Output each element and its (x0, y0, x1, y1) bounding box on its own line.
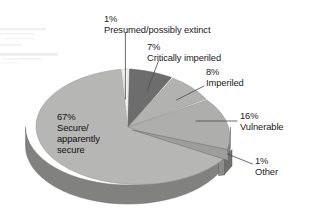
label-presumed-extinct-percent: 1% (104, 13, 210, 24)
label-critically-imperiled: 7% Critically imperiled (147, 41, 221, 63)
label-secure-name-line2: apparently (57, 133, 100, 144)
label-presumed-extinct-name: Presumed/possibly extinct (104, 24, 210, 35)
pie-chart-figure: 1% Presumed/possibly extinct 7% Critical… (0, 0, 312, 224)
label-vulnerable-percent: 16% (240, 110, 283, 121)
label-other-name: Other (255, 166, 278, 177)
label-vulnerable-name: Vulnerable (240, 121, 283, 132)
label-secure-percent: 67% (57, 111, 100, 122)
label-presumed-extinct: 1% Presumed/possibly extinct (104, 13, 210, 35)
label-vulnerable: 16% Vulnerable (240, 110, 283, 132)
label-secure: 67% Secure/ apparently secure (57, 111, 100, 155)
label-imperiled-percent: 8% (206, 66, 244, 77)
label-other: 1% Other (255, 155, 278, 177)
label-imperiled: 8% Imperiled (206, 66, 244, 88)
label-other-percent: 1% (255, 155, 278, 166)
label-critically-imperiled-percent: 7% (147, 41, 221, 52)
label-secure-name-line3: secure (57, 144, 100, 155)
label-critically-imperiled-name: Critically imperiled (147, 52, 221, 63)
label-imperiled-name: Imperiled (206, 77, 244, 88)
scan-artifact-streaks (0, 28, 58, 63)
label-secure-name-line1: Secure/ (57, 122, 100, 133)
